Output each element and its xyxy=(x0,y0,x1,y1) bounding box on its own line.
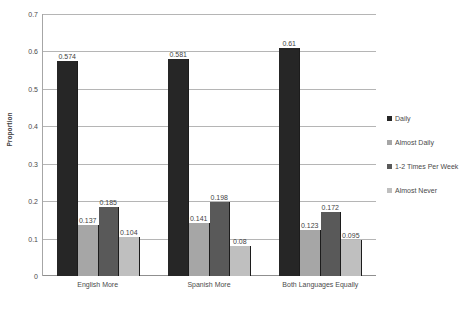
bar-group-bars: 0.610.1230.1720.095 xyxy=(279,14,361,276)
legend-item[interactable]: Almost Daily xyxy=(387,138,463,147)
bar-slot: 0.172 xyxy=(321,14,342,276)
bar-value-label: 0.141 xyxy=(190,215,208,222)
bar[interactable]: 0.198 xyxy=(210,202,231,276)
legend-label: Almost Never xyxy=(395,186,437,195)
bar-group-bars: 0.5810.1410.1980.08 xyxy=(168,14,250,276)
legend-swatch-icon xyxy=(387,116,392,121)
bar-slot: 0.574 xyxy=(57,14,78,276)
legend-swatch-icon xyxy=(387,164,392,169)
y-axis-tick-label: 0.2 xyxy=(28,198,38,205)
bar-group-bars: 0.5740.1370.1850.104 xyxy=(57,14,139,276)
bar[interactable]: 0.141 xyxy=(189,223,210,276)
chart-legend: DailyAlmost Daily1-2 Times Per WeekAlmos… xyxy=(387,114,463,210)
bar[interactable]: 0.104 xyxy=(119,237,140,276)
bar-value-label: 0.61 xyxy=(282,40,296,47)
bar-value-label: 0.095 xyxy=(342,232,360,239)
bar-value-label: 0.574 xyxy=(58,53,76,60)
bar-value-label: 0.172 xyxy=(322,204,340,211)
bar-slot: 0.198 xyxy=(210,14,231,276)
bar-value-label: 0.137 xyxy=(79,217,97,224)
bar-slot: 0.141 xyxy=(189,14,210,276)
bar-chart: Proportion 0.70.60.50.40.30.20.10 0.5740… xyxy=(0,0,465,309)
x-axis-tick-label: English More xyxy=(42,281,153,288)
bar-slot: 0.08 xyxy=(230,14,251,276)
y-axis-tick-label: 0.7 xyxy=(28,11,38,18)
legend-item[interactable]: Daily xyxy=(387,114,463,123)
bar[interactable]: 0.08 xyxy=(230,246,251,276)
x-axis-tick-label: Spanish More xyxy=(153,281,264,288)
bar[interactable]: 0.172 xyxy=(321,212,342,276)
legend-label: Daily xyxy=(395,114,411,123)
bar-value-label: 0.104 xyxy=(120,229,138,236)
bar[interactable]: 0.61 xyxy=(279,48,300,276)
bar[interactable]: 0.581 xyxy=(168,59,189,276)
y-axis-tick-label: 0.1 xyxy=(28,235,38,242)
bar-value-label: 0.581 xyxy=(169,51,187,58)
bar-value-label: 0.198 xyxy=(211,194,229,201)
legend-item[interactable]: 1-2 Times Per Week xyxy=(387,162,463,171)
bar-slot: 0.185 xyxy=(99,14,120,276)
legend-swatch-icon xyxy=(387,140,392,145)
plot-area: 0.5740.1370.1850.1040.5810.1410.1980.080… xyxy=(42,14,376,276)
legend-label: Almost Daily xyxy=(395,138,434,147)
bar-value-label: 0.08 xyxy=(233,238,247,245)
bar[interactable]: 0.137 xyxy=(78,225,99,276)
bar[interactable]: 0.185 xyxy=(99,207,120,276)
bar-value-label: 0.123 xyxy=(301,222,319,229)
y-axis-tick-label: 0.5 xyxy=(28,85,38,92)
bar-group: 0.610.1230.1720.095 xyxy=(265,14,376,276)
bar-slot: 0.095 xyxy=(341,14,362,276)
bar-value-label: 0.185 xyxy=(100,199,118,206)
y-axis-tick-label: 0.6 xyxy=(28,48,38,55)
y-axis-tick-label: 0.4 xyxy=(28,123,38,130)
bar-slot: 0.137 xyxy=(78,14,99,276)
bar[interactable]: 0.574 xyxy=(57,61,78,276)
bar-slot: 0.61 xyxy=(279,14,300,276)
bar-group: 0.5740.1370.1850.104 xyxy=(43,14,154,276)
y-axis-tick-label: 0.3 xyxy=(28,160,38,167)
bar-slot: 0.104 xyxy=(119,14,140,276)
legend-swatch-icon xyxy=(387,188,392,193)
bar[interactable]: 0.095 xyxy=(341,240,362,276)
bar-slot: 0.581 xyxy=(168,14,189,276)
legend-item[interactable]: Almost Never xyxy=(387,186,463,195)
bar[interactable]: 0.123 xyxy=(300,230,321,276)
x-axis-tick-label: Both Languages Equally xyxy=(265,281,376,288)
bar-group: 0.5810.1410.1980.08 xyxy=(154,14,265,276)
x-axis-tick-labels: English MoreSpanish MoreBoth Languages E… xyxy=(42,281,376,288)
y-axis-tick-labels: 0.70.60.50.40.30.20.10 xyxy=(12,14,38,276)
bar-groups: 0.5740.1370.1850.1040.5810.1410.1980.080… xyxy=(43,14,376,276)
legend-label: 1-2 Times Per Week xyxy=(395,162,458,171)
bar-slot: 0.123 xyxy=(300,14,321,276)
y-axis-tick-label: 0 xyxy=(34,273,38,280)
